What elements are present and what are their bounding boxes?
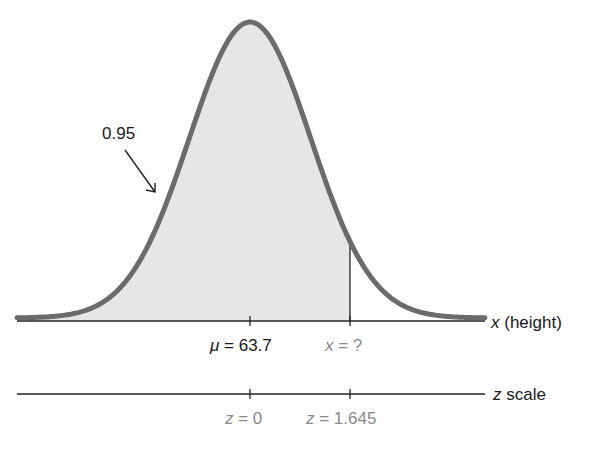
z-axis-label: z scale [493, 385, 546, 405]
mean-rest: = 63.7 [219, 336, 271, 355]
x-axis-rest: (height) [500, 313, 562, 332]
z-cutoff-label: z = 1.645 [306, 409, 376, 429]
x-axis-label: x (height) [491, 313, 562, 333]
area-arrow [125, 150, 155, 192]
cutoff-tick-label: x = ? [325, 336, 362, 356]
z-axis-rest: scale [502, 385, 546, 404]
z-cutoff-var: z [306, 409, 315, 428]
z-cutoff-rest: = 1.645 [315, 409, 377, 428]
z-zero-label: z = 0 [225, 409, 262, 429]
x-axis-var: x [491, 313, 500, 332]
cutoff-rest: = ? [334, 336, 363, 355]
z-axis-var: z [493, 385, 502, 404]
shaded-area-095 [17, 22, 350, 321]
mean-var: μ [210, 336, 219, 355]
z-zero-var: z [225, 409, 234, 428]
cutoff-var: x [325, 336, 334, 355]
normal-distribution-chart [0, 0, 596, 450]
z-zero-rest: = 0 [234, 409, 263, 428]
mean-tick-label: μ = 63.7 [210, 336, 272, 356]
area-label: 0.95 [102, 124, 135, 144]
